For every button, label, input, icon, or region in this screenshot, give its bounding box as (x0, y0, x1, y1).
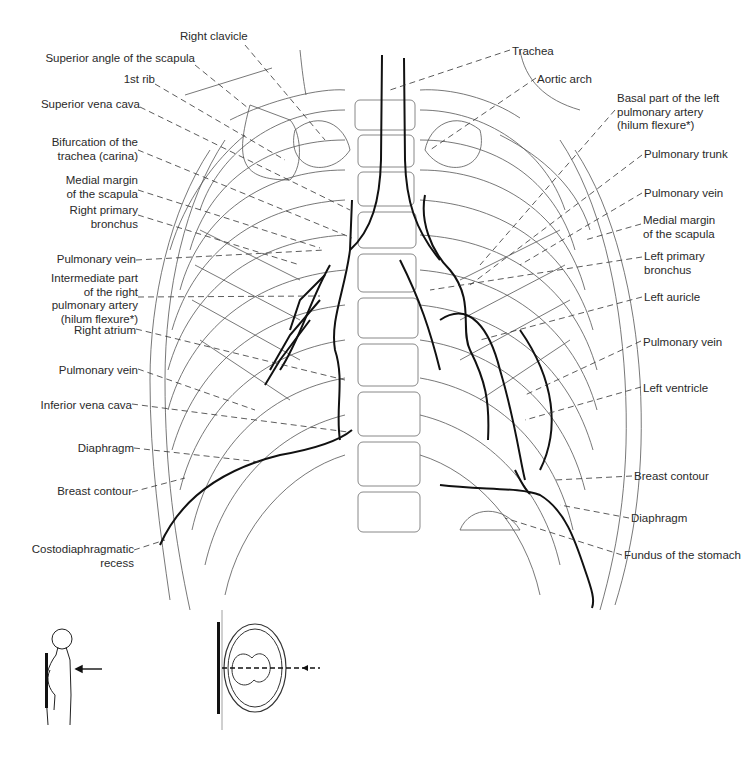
label-medial-margin-scapula-left: Medial margin of the scapula (643, 214, 715, 241)
label-pulmonary-vein-left-lower: Pulmonary vein (643, 336, 722, 350)
label-first-rib: 1st rib (100, 73, 155, 87)
label-left-auricle: Left auricle (644, 291, 700, 305)
label-pulmonary-vein-right-upper: Pulmonary vein (20, 253, 136, 267)
chest-pa-diagram: Right clavicle Superior angle of the sca… (0, 0, 751, 769)
label-carina: Bifurcation of the trachea (carina) (20, 136, 138, 163)
label-pulmonary-trunk: Pulmonary trunk (644, 148, 728, 162)
label-trachea: Trachea (512, 45, 554, 59)
vertebral-column (355, 100, 420, 532)
label-inferior-vena-cava: Inferior vena cava (20, 399, 132, 413)
label-costodiaphragmatic-recess: Costodiaphragmatic recess (20, 543, 134, 570)
label-diaphragm-right: Diaphragm (20, 442, 134, 456)
label-right-primary-bronchus: Right primary bronchus (20, 204, 138, 231)
axial-section-inset (210, 610, 325, 730)
label-left-ventricle: Left ventricle (643, 382, 708, 396)
detector-plate-icon (217, 622, 220, 714)
label-right-clavicle: Right clavicle (180, 30, 248, 44)
label-basal-left-pa: Basal part of the left pulmonary artery … (617, 92, 719, 133)
label-pulmonary-vein-right-lower: Pulmonary vein (20, 364, 138, 378)
label-fundus-stomach: Fundus of the stomach (624, 549, 741, 563)
label-aortic-arch: Aortic arch (537, 73, 592, 87)
label-pulmonary-vein-left-upper: Pulmonary vein (644, 187, 723, 201)
label-breast-contour-right: Breast contour (20, 485, 132, 499)
label-diaphragm-left: Diaphragm (631, 512, 687, 526)
label-superior-vena-cava: Superior vena cava (20, 98, 140, 112)
detector-plate-icon (45, 653, 48, 708)
stomach-fundus (460, 511, 520, 530)
patient-position-inset (40, 625, 110, 725)
head-icon (52, 629, 72, 649)
label-medial-margin-scapula-right: Medial margin of the scapula (20, 174, 138, 201)
label-breast-contour-left: Breast contour (634, 470, 709, 484)
label-left-primary-bronchus: Left primary bronchus (644, 250, 705, 277)
label-superior-angle-scapula: Superior angle of the scapula (20, 52, 195, 66)
label-right-atrium: Right atrium (20, 324, 136, 338)
label-intermediate-right-pa: Intermediate part of the right pulmonary… (20, 272, 138, 326)
